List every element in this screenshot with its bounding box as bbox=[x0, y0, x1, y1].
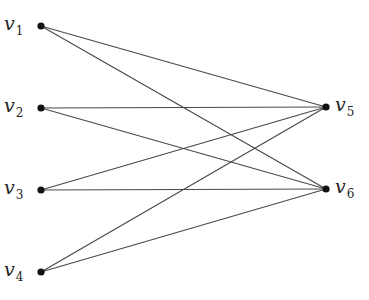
edge-v4-v6 bbox=[41, 189, 326, 272]
bipartite-graph: v1v2v3v4v5v6 bbox=[0, 0, 369, 300]
node-label-v3: v3 bbox=[4, 176, 23, 202]
node-v1 bbox=[37, 22, 44, 29]
label-layer: v1v2v3v4v5v6 bbox=[4, 12, 354, 284]
node-v5 bbox=[322, 103, 329, 110]
node-label-v5: v5 bbox=[335, 93, 354, 119]
edge-v2-v5 bbox=[41, 107, 326, 108]
node-v4 bbox=[37, 268, 44, 275]
node-v6 bbox=[322, 185, 329, 192]
node-label-v4: v4 bbox=[4, 258, 24, 284]
edge-layer bbox=[41, 26, 326, 272]
node-label-v1: v1 bbox=[4, 12, 23, 38]
node-v3 bbox=[37, 186, 44, 193]
node-label-v6: v6 bbox=[335, 175, 354, 201]
edge-v3-v5 bbox=[41, 107, 326, 190]
edge-v1-v5 bbox=[41, 26, 326, 107]
node-label-v2: v2 bbox=[4, 94, 23, 120]
node-v2 bbox=[37, 104, 44, 111]
